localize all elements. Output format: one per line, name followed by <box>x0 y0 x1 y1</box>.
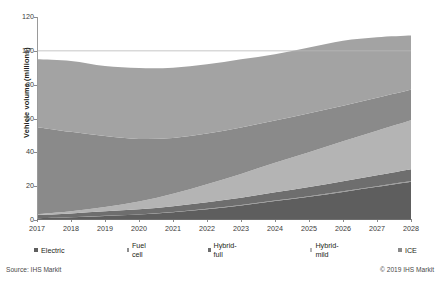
y-tick-mark <box>34 51 37 52</box>
y-tick-mark <box>34 186 37 187</box>
y-tick-label: 100 <box>8 47 34 55</box>
y-tick-mark <box>34 119 37 120</box>
y-tick-label: 60 <box>8 115 34 123</box>
legend-item[interactable]: Hybrid-full <box>208 241 238 259</box>
chart-legend: ElectricFuel cellHybrid-fullHybrid-mildI… <box>0 243 442 257</box>
legend-swatch-icon <box>208 248 211 252</box>
y-tick-mark <box>34 85 37 86</box>
legend-swatch-icon <box>34 248 38 252</box>
stacked-area-chart: Vehicle volume (millions) 02040608010012… <box>0 0 442 285</box>
y-tick-label: 120 <box>8 13 34 21</box>
legend-swatch-icon <box>310 248 313 252</box>
y-tick-label: 40 <box>8 148 34 156</box>
copyright-text: © 2019 IHS Markit <box>380 266 434 273</box>
legend-swatch-icon <box>398 248 402 252</box>
x-tick-mark <box>411 219 412 222</box>
y-axis-line <box>37 17 38 220</box>
y-tick-label: 80 <box>8 81 34 89</box>
legend-item[interactable]: Hybrid-mild <box>310 241 340 259</box>
legend-label: Hybrid-full <box>214 241 238 259</box>
chart-footer: Source: IHS Markit © 2019 IHS Markit <box>0 266 442 273</box>
legend-item[interactable]: ICE <box>398 246 417 255</box>
source-text: Source: IHS Markit <box>6 266 61 273</box>
legend-label: Electric <box>41 246 65 255</box>
legend-item[interactable]: Fuel cell <box>127 241 148 259</box>
legend-label: Hybrid-mild <box>315 241 339 259</box>
legend-swatch-icon <box>127 248 129 252</box>
y-tick-label: 0 <box>8 216 34 224</box>
plot-area <box>37 17 411 220</box>
y-tick-mark <box>34 220 37 221</box>
legend-item[interactable]: Electric <box>34 246 65 255</box>
y-tick-mark <box>34 152 37 153</box>
x-axis-line <box>37 219 411 220</box>
legend-label: ICE <box>405 246 417 255</box>
x-tick-label: 2028 <box>391 224 431 233</box>
y-tick-label: 20 <box>8 182 34 190</box>
y-tick-mark <box>34 17 37 18</box>
legend-label: Fuel cell <box>132 241 148 259</box>
